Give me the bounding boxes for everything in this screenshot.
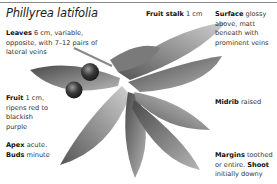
annotation-apex-buds: Apex acute. Buds minute	[6, 141, 50, 160]
annotation-margins-shoot: Margins toothed or entire. Shoot initial…	[215, 151, 277, 180]
annotation-fruit: Fruit 1 cm, ripens red to blackish purpl…	[6, 94, 52, 132]
annotation-surface: Surface glossy above, matt beneath with …	[215, 10, 277, 48]
annotation-fruit-stalk: Fruit stalk 1 cm	[146, 10, 202, 20]
berry-2	[66, 82, 83, 99]
berry-1	[81, 63, 99, 81]
annotation-leaves: Leaves 6 cm, variable, opposite, with 7–…	[6, 29, 111, 58]
leaf-lower-left	[60, 86, 130, 165]
annotation-midrib: Midrib raised	[215, 98, 261, 108]
